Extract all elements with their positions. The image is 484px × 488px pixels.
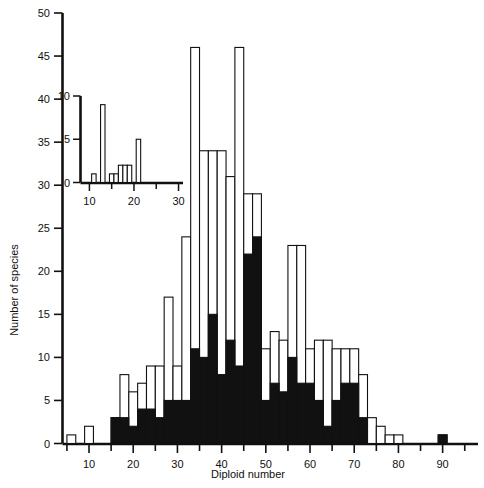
x-tick-label: 70: [348, 458, 360, 470]
x-axis-title: Diploid number: [211, 468, 285, 480]
histogram-bar-filled: [226, 340, 235, 443]
inset-bars-group: [92, 105, 141, 183]
histogram-bar-filled: [253, 237, 262, 444]
histogram-bar-open: [85, 426, 94, 443]
inset-x-tick-label: 20: [128, 195, 140, 207]
y-tick-label: 40: [38, 93, 50, 105]
chart-root: 05101520253035404550 Number of species 1…: [0, 0, 484, 488]
histogram-bar-filled: [306, 383, 315, 443]
inset-histogram-bar: [109, 174, 113, 183]
x-tick-label: 20: [127, 458, 139, 470]
y-tick-label: 0: [44, 438, 50, 450]
histogram-bar-open: [67, 435, 76, 444]
main-x-axis: 102030405060708090 Diploid number: [63, 444, 479, 480]
histogram-bar-filled: [235, 366, 244, 443]
histogram-bar-filled: [297, 383, 306, 443]
histogram-bar-filled: [120, 418, 129, 444]
histogram-bar-filled: [129, 426, 138, 443]
histogram-bar-filled: [270, 383, 279, 443]
inset-histogram-bar: [92, 174, 96, 183]
histogram-bar-filled: [191, 349, 200, 444]
inset-y-tick-labels: 0510: [58, 90, 70, 189]
histogram-bar-open: [367, 418, 376, 444]
histogram-bar-filled: [173, 400, 182, 443]
histogram-bar-filled: [438, 435, 447, 444]
histogram-bar-filled: [208, 314, 217, 443]
histogram-bar-filled: [182, 400, 191, 443]
x-tick-label: 60: [304, 458, 316, 470]
histogram-bar-open: [394, 435, 403, 444]
histogram-bar-filled: [138, 409, 147, 443]
y-tick-label: 15: [38, 308, 50, 320]
histogram-bar-filled: [341, 383, 350, 443]
histogram-bar-filled: [350, 383, 359, 443]
histogram-bar-filled: [359, 418, 368, 444]
histogram-bar-open: [376, 426, 385, 443]
y-tick-label: 20: [38, 265, 50, 277]
y-axis-title: Number of species: [8, 244, 20, 336]
x-tick-group: [67, 444, 465, 453]
inset-histogram-bar: [127, 165, 131, 182]
inset-x-tick-label: 30: [172, 195, 184, 207]
inset-chart: 0510 102030: [58, 90, 185, 207]
histogram-bar-filled: [164, 400, 173, 443]
y-tick-label: 35: [38, 136, 50, 148]
y-tick-label: 25: [38, 222, 50, 234]
y-tick-labels: 05101520253035404550: [38, 7, 50, 450]
histogram-figure: 05101520253035404550 Number of species 1…: [0, 0, 484, 488]
histogram-bar-filled: [200, 357, 209, 443]
histogram-bar-filled: [111, 418, 120, 444]
histogram-bar-filled: [314, 400, 323, 443]
y-tick-label: 10: [38, 351, 50, 363]
inset-histogram-bar: [101, 105, 105, 183]
inset-histogram-bar: [136, 139, 140, 182]
histogram-bar-filled: [244, 254, 253, 443]
y-tick-label: 30: [38, 179, 50, 191]
histogram-bar-filled: [261, 400, 270, 443]
y-tick-label: 50: [38, 7, 50, 19]
x-tick-label: 30: [171, 458, 183, 470]
x-tick-label: 10: [83, 458, 95, 470]
histogram-bar-open: [385, 435, 394, 444]
histogram-bar-filled: [217, 375, 226, 444]
inset-x-tick-labels: 102030: [83, 195, 184, 207]
inset-histogram-bar: [118, 165, 122, 182]
y-tick-label: 5: [44, 394, 50, 406]
histogram-bar-filled: [279, 392, 288, 444]
inset-histogram-bar: [123, 165, 127, 182]
main-y-axis: 05101520253035404550 Number of species: [8, 7, 63, 450]
inset-y-tick-label: 10: [58, 90, 70, 102]
inset-x-tick-label: 10: [83, 195, 95, 207]
histogram-bar-filled: [288, 357, 297, 443]
inset-y-tick-label: 0: [64, 177, 70, 189]
x-tick-label: 80: [392, 458, 404, 470]
histogram-bar-filled: [332, 400, 341, 443]
histogram-bar-filled: [323, 426, 332, 443]
histogram-bar-filled: [155, 418, 164, 444]
inset-histogram-bar: [114, 174, 118, 183]
histogram-bar-filled: [146, 409, 155, 443]
inset-y-tick-label: 5: [64, 133, 70, 145]
y-tick-label: 45: [38, 50, 50, 62]
x-tick-label: 90: [437, 458, 449, 470]
